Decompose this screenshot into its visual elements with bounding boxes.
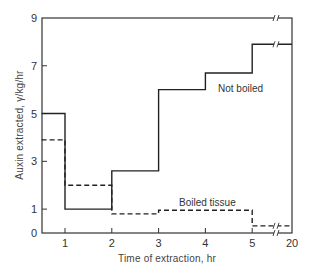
- x-tick-label: 5: [249, 237, 255, 249]
- x-axis-ticks: 1234520: [62, 228, 298, 249]
- x-tick-label: 4: [202, 237, 208, 249]
- step-chart: 013579 1234520 Time of extraction, hr Au…: [0, 0, 312, 272]
- series-label-boiled-tissue: Boiled tissue: [179, 197, 236, 208]
- axis-break-marks: [273, 15, 279, 236]
- x-axis-label: Time of extraction, hr: [118, 253, 216, 264]
- y-tick-label: 3: [31, 155, 37, 167]
- x-tick-label: 3: [156, 237, 162, 249]
- x-tick-label: 20: [286, 237, 298, 249]
- x-tick-label: 2: [109, 237, 115, 249]
- y-tick-label: 0: [31, 227, 37, 239]
- series-boiled-tissue: [42, 140, 292, 226]
- series-label-not-boiled: Not boiled: [218, 83, 263, 94]
- x-tick-label: 1: [62, 237, 68, 249]
- plot-border: [42, 18, 292, 233]
- y-tick-label: 5: [31, 108, 37, 120]
- series-not-boiled: [42, 44, 292, 209]
- y-axis-ticks: 013579: [31, 12, 47, 239]
- series-layer: [42, 44, 292, 226]
- y-axis-label: Auxin extracted, γ/kg/hr: [14, 70, 25, 180]
- y-tick-label: 1: [31, 203, 37, 215]
- y-tick-label: 7: [31, 60, 37, 72]
- plot-frame: [42, 18, 292, 233]
- y-tick-label: 9: [31, 12, 37, 24]
